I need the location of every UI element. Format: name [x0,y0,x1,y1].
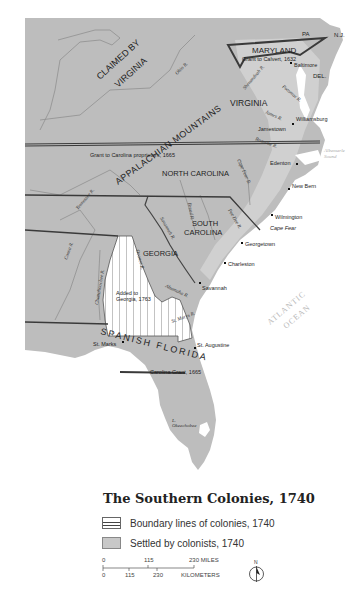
scale-miles-230: 230 MILES [189,557,219,563]
label-north-carolina: NORTH CAROLINA [162,169,229,178]
map-title: The Southern Colonies, 1740 [103,491,315,506]
legend-item-settled: Settled by colonists, 1740 [102,537,244,549]
label-del: DEL. [313,73,327,79]
label-maryland-grant: Grant to Calvert, 1632 [242,56,296,62]
city-baltimore: Baltimore [294,62,317,68]
settled-swatch-icon [102,537,121,549]
city-jamestown: Jamestown [258,126,286,132]
city-wilmington: Wilmington [275,214,302,220]
label-carolina-grant-1665: Carolina Grant, 1665 [150,369,201,375]
label-carolina-grant: Grant to Carolina proprietors, 1665 [90,152,175,158]
legend-item-boundary: Boundary lines of colonies, 1740 [102,517,275,529]
city-charleston: Charleston [228,261,255,267]
label-nj: N.J. [334,32,345,38]
legend-label: Boundary lines of colonies, 1740 [130,518,275,529]
label-albemarle-2: Sound [324,154,337,159]
city-st-marks: St. Marks [93,341,116,347]
label-south-carolina-1: SOUTH [192,219,218,228]
city-edenton: Edenton [270,160,291,166]
scale-km-115: 115 [125,572,135,578]
label-south-carolina-2: CAROLINA [184,228,222,237]
scale-bar: 0 115 230 MILES 0 115 230 KILOMETERS [100,557,250,587]
scale-line [100,565,220,571]
north-arrow-icon: N [248,558,266,584]
scale-km-0: 0 [102,572,105,578]
label-georgia: GEORGIA [143,249,178,258]
boundary-swatch-icon [102,517,121,529]
city-georgetown: Georgetown [245,241,275,247]
label-maryland: MARYLAND [252,46,297,55]
scale-km-label: KILOMETERS [181,572,220,578]
southern-colonies-map: CLAIMED BY VIRGINIA MARYLAND Grant to Ca… [0,0,363,500]
label-virginia: VIRGINIA [230,98,268,108]
label-albemarle-1: Albemarle [323,148,346,153]
label-pa: PA [302,31,310,37]
city-st-augustine: St. Augustine [197,342,229,348]
compass-n: N [254,559,258,565]
city-savannah: Savannah [202,285,227,291]
legend-label: Settled by colonists, 1740 [130,538,244,549]
scale-km-230: 230 [153,572,163,578]
label-added-to-georgia-2: Georgia, 1763 [116,296,151,302]
lake-okeechobee-2: Okeechobee [172,423,197,428]
scale-miles-0: 0 [102,557,105,563]
city-williamsburg: Williamsburg [296,116,327,122]
city-cape-fear: Cape Fear [270,225,297,231]
city-new-bern: New Bern [292,183,316,189]
scale-miles-115: 115 [144,557,154,563]
